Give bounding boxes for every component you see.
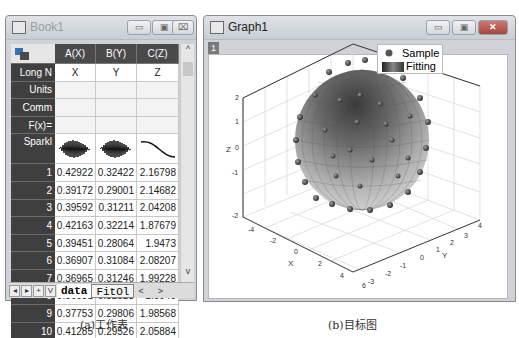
x-tick: 2 [318,260,322,267]
y-tick: -2 [385,270,391,277]
x-axis-label: X [288,259,294,268]
z-tick: 2 [235,94,239,101]
y-axis-label: Y [442,251,448,260]
y-tick: 4 [478,222,482,229]
x-tick: 0 [294,248,298,255]
caption-a: (a)工作表 [80,316,128,332]
z-tick: -2 [232,212,238,219]
y-tick: 0 [420,254,424,261]
x-tick: 4 [340,272,344,279]
fitted-sphere-surface [295,70,429,210]
legend[interactable]: Sample Fitting [377,44,443,74]
z-axis-label: Z [226,145,231,154]
fitting-gradient-icon [382,61,404,72]
legend-fitting: Fitting [406,60,436,72]
x-tick: 6 [362,282,366,289]
x-tick: -4 [248,226,254,233]
z-tick: 1 [235,118,239,125]
y-tick: 1 [436,246,440,253]
z-tick: -1 [232,169,238,176]
y-tick: -1 [400,262,406,269]
caption-b: (b)目标图 [328,316,377,332]
y-tick: 2 [450,239,454,246]
z-tick: 0 [235,144,239,151]
y-tick: -3 [368,278,374,285]
legend-sample: Sample [402,47,439,59]
sample-sphere-icon [382,47,396,59]
x-tick: -2 [270,237,276,244]
y-tick: 3 [464,232,468,239]
